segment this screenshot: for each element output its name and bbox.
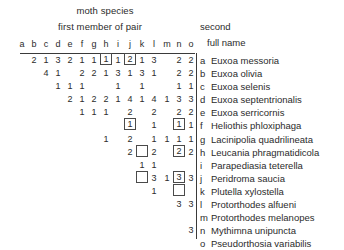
matrix-cell-cd: 1 [52, 80, 64, 92]
column-header-h: h [100, 39, 112, 49]
matrix-cell-jk [136, 171, 148, 183]
matrix-cell-eh: 1 [100, 106, 112, 118]
axis-label-first-member: first member of pair [0, 21, 200, 32]
species-name-k: Plutella xylostella [211, 185, 284, 198]
matrix-cell-jo: 3 [185, 172, 197, 184]
species-row-g: gLacinipolia quadrilineata [200, 133, 319, 146]
matrix-cell-gh: 1 [100, 133, 112, 145]
species-key-h: h [200, 146, 211, 159]
matrix-cell-ag: 1 [88, 54, 100, 66]
matrix-cell-dn: 3 [173, 93, 185, 105]
matrix-cell-en: 2 [173, 106, 185, 118]
matrix-cell-co: 1 [185, 80, 197, 92]
species-row-i: iParapediasia teterella [200, 159, 319, 172]
matrix-cell-bh: 1 [100, 67, 112, 79]
matrix-cell-dl: 4 [148, 93, 160, 105]
figure-title-moth-species: moth species [0, 5, 210, 16]
matrix-cell-kn [173, 184, 185, 196]
matrix-cell-bl: 1 [148, 67, 160, 79]
matrix-cell-do: 3 [185, 93, 197, 105]
species-key-m: m [200, 211, 211, 224]
species-row-d: dEuxoa septentrionalis [200, 93, 319, 106]
species-name-e: Euxoa serricornis [211, 106, 284, 119]
matrix-cell-lo: 3 [185, 198, 197, 210]
matrix-cell-kl: 1 [148, 185, 160, 197]
matrix-cell-bd: 1 [52, 67, 64, 79]
species-name-o: Pseudorthosia variabilis [211, 237, 311, 250]
matrix-cell-bk: 3 [136, 67, 148, 79]
species-name-f: Heliothis phloxiphaga [211, 119, 301, 132]
species-row-a: aEuxoa messoria [200, 54, 319, 67]
species-name-j: Peridroma saucia [211, 172, 285, 185]
matrix-cell-ej: 2 [124, 106, 136, 118]
matrix-cell-al: 3 [148, 54, 160, 66]
matrix-cell-fo: 1 [185, 119, 197, 131]
column-header-g: g [88, 39, 100, 49]
matrix-cell-fj: 1 [124, 118, 136, 130]
matrix-cell-gl: 1 [148, 133, 160, 145]
column-header-l: l [148, 39, 160, 49]
matrix-cell-dj: 4 [124, 93, 136, 105]
matrix-cell-ac: 1 [40, 54, 52, 66]
matrix-cell-jl: 3 [148, 172, 160, 184]
species-name-l: Protorthodes alfueni [211, 198, 296, 211]
matrix-cell-an: 2 [173, 54, 185, 66]
matrix-cell-bn: 2 [173, 67, 185, 79]
column-header-b: b [28, 39, 40, 49]
column-header-o: o [185, 39, 197, 49]
matrix-cell-de: 2 [64, 93, 76, 105]
axis-label-second: second [200, 21, 320, 32]
column-header-e: e [64, 39, 76, 49]
matrix-cell-df: 1 [76, 93, 88, 105]
species-name-d: Euxoa septentrionalis [211, 93, 302, 106]
species-key-c: c [200, 80, 211, 93]
matrix-cell-ck: 1 [136, 80, 148, 92]
species-key-a: a [200, 54, 211, 67]
matrix-cell-el: 2 [148, 106, 160, 118]
matrix-cell-ln: 3 [173, 198, 185, 210]
matrix-cell-bg: 2 [88, 67, 100, 79]
species-key-g: g [200, 133, 211, 146]
species-name-n: Mythimna unipuncta [211, 224, 296, 237]
species-name-c: Euxoa selenis [211, 80, 270, 93]
matrix-cell-fl: 1 [148, 119, 160, 131]
species-row-h: hLeucania phragmatidicola [200, 146, 319, 159]
species-key-o: o [200, 237, 211, 250]
matrix-cell-jn: 3 [173, 171, 185, 183]
matrix-cell-cn: 1 [173, 80, 185, 92]
column-header-c: c [40, 39, 52, 49]
matrix-cell-bj: 1 [124, 67, 136, 79]
matrix-cell-dg: 2 [88, 93, 100, 105]
column-header-full-name: full name [207, 37, 327, 48]
matrix-cell-hk [136, 145, 148, 157]
matrix-cell-eo: 2 [185, 106, 197, 118]
matrix-cell-cf: 1 [76, 80, 88, 92]
column-header-a: a [16, 39, 28, 49]
matrix-cell-ak: 1 [136, 54, 148, 66]
matrix-cell-ho: 2 [185, 146, 197, 158]
column-header-n: n [173, 39, 185, 49]
column-header-f: f [76, 39, 88, 49]
species-name-a: Euxoa messoria [211, 54, 279, 67]
species-row-k: kPlutella xylostella [200, 185, 319, 198]
species-key-f: f [200, 119, 211, 132]
matrix-cell-ik: 1 [136, 159, 148, 171]
species-name-b: Euxoa olivia [211, 67, 262, 80]
species-row-n: nMythimna unipuncta [200, 224, 319, 237]
matrix-cell-go: 1 [185, 133, 197, 145]
matrix-cell-eg: 1 [88, 106, 100, 118]
matrix-cell-bi: 3 [112, 67, 124, 79]
matrix-cell-ef: 1 [76, 106, 88, 118]
matrix-cell-bf: 2 [76, 67, 88, 79]
matrix-cell-ai: 1 [112, 54, 124, 66]
matrix-cell-di: 1 [112, 93, 124, 105]
matrix-cell-ad: 3 [52, 54, 64, 66]
species-key-k: k [200, 185, 211, 198]
matrix-cell-bc: 4 [40, 67, 52, 79]
matrix-cell-dh: 2 [100, 93, 112, 105]
matrix-cell-no: 3 [185, 224, 197, 236]
matrix-cell-il: 1 [148, 159, 160, 171]
matrix-cell-bo: 2 [185, 67, 197, 79]
species-name-list: aEuxoa messoriabEuxoa oliviacEuxoa selen… [200, 54, 319, 250]
matrix-cell-ah: 1 [100, 53, 112, 65]
